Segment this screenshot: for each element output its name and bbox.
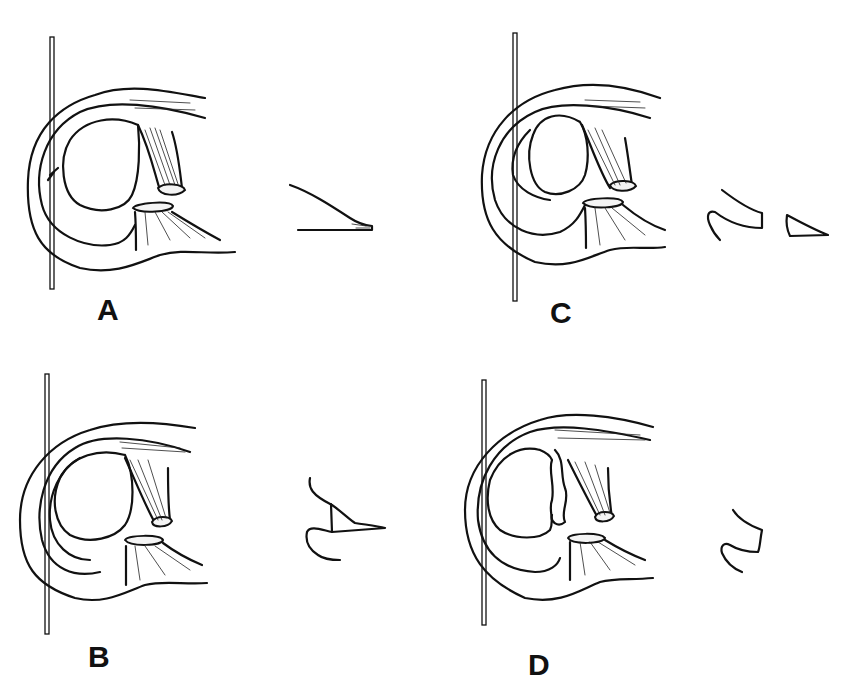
knee-meniscus-drawing-d	[440, 360, 864, 678]
tear-profile-d	[721, 510, 762, 572]
panel-c: C	[440, 0, 864, 340]
tear-profile-c-remnant	[708, 190, 762, 240]
panel-a: A	[0, 0, 430, 340]
panel-label-b: B	[88, 642, 110, 672]
tear-profile-c-fragment	[787, 215, 828, 236]
probe-rod	[513, 33, 517, 301]
probe-rod	[45, 374, 49, 634]
knee-meniscus-drawing-c	[440, 0, 864, 340]
knee-meniscus-drawing-b	[0, 360, 430, 678]
panel-b: B	[0, 360, 430, 678]
knee-meniscus-drawing-a	[0, 0, 430, 340]
panel-label-d: D	[528, 650, 550, 678]
panel-label-c: C	[550, 298, 572, 328]
panel-label-a: A	[97, 295, 119, 325]
panel-d: D	[440, 360, 864, 678]
tear-profile-a	[290, 185, 372, 230]
tear-profile-b	[307, 478, 385, 560]
probe-rod	[482, 380, 486, 625]
